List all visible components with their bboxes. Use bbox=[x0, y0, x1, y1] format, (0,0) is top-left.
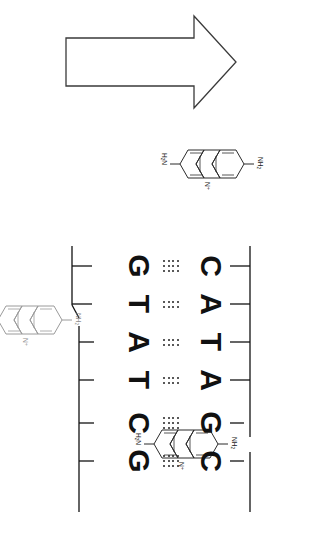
hydrogen-bond-dot bbox=[172, 382, 174, 384]
hydrogen-bond-dot bbox=[172, 344, 174, 346]
base-bottom-2: T bbox=[124, 289, 154, 319]
hydrogen-bond-column bbox=[160, 265, 182, 267]
hydrogen-bonds-pair-4 bbox=[160, 369, 182, 391]
ligand-lower-ring-nitrogen-label: N+ bbox=[22, 338, 30, 346]
hydrogen-bond-dot bbox=[177, 270, 179, 272]
hydrogen-bond-dot bbox=[168, 301, 170, 303]
hydrogen-bond-dot bbox=[163, 301, 165, 303]
hydrogen-bond-dot bbox=[172, 339, 174, 341]
hydrogen-bond-dot bbox=[168, 339, 170, 341]
ligand-upper-amine-bottom-label: H2N bbox=[133, 433, 142, 445]
ligand-left-amine-bottom-label: H2N bbox=[159, 153, 168, 165]
hydrogen-bond-dot bbox=[168, 306, 170, 308]
hydrogen-bond-dot bbox=[168, 422, 170, 424]
hydrogen-bond-dot bbox=[168, 260, 170, 262]
base-bottom-4: T bbox=[124, 365, 154, 395]
hydrogen-bond-dot bbox=[163, 460, 165, 462]
hydrogen-bond-dot bbox=[172, 422, 174, 424]
hydrogen-bond-column bbox=[160, 382, 182, 384]
hydrogen-bond-dot bbox=[168, 265, 170, 267]
hydrogen-bond-dot bbox=[168, 427, 170, 429]
hydrogen-bond-dot bbox=[172, 265, 174, 267]
hydrogen-bond-dot bbox=[172, 455, 174, 457]
hydrogen-bond-column bbox=[160, 422, 182, 424]
hydrogen-bond-dot bbox=[177, 339, 179, 341]
hydrogen-bond-dot bbox=[172, 377, 174, 379]
hydrogen-bond-dot bbox=[177, 306, 179, 308]
base-top-5: G bbox=[196, 408, 226, 438]
hydrogen-bond-dot bbox=[163, 260, 165, 262]
hydrogen-bond-dot bbox=[177, 260, 179, 262]
hydrogen-bond-dot bbox=[172, 260, 174, 262]
hydrogen-bond-dot bbox=[172, 427, 174, 429]
hydrogen-bond-dot bbox=[163, 465, 165, 467]
base-bottom-6: G bbox=[124, 446, 154, 476]
ligand-left-ring-nitrogen-label: N+ bbox=[204, 182, 212, 190]
hydrogen-bond-dot bbox=[163, 377, 165, 379]
hydrogen-bond-dot bbox=[163, 344, 165, 346]
hydrogen-bonds-pair-1 bbox=[160, 255, 182, 277]
hydrogen-bond-dot bbox=[177, 265, 179, 267]
hydrogen-bond-dot bbox=[172, 270, 174, 272]
hydrogen-bond-dot bbox=[177, 382, 179, 384]
hydrogen-bond-dot bbox=[172, 460, 174, 462]
hydrogen-bond-dot bbox=[177, 301, 179, 303]
hydrogen-bond-column bbox=[160, 427, 182, 429]
hydrogen-bond-dot bbox=[172, 417, 174, 419]
ligand-upper-ring-nitrogen-label: N+ bbox=[178, 462, 186, 470]
hydrogen-bond-dot bbox=[163, 422, 165, 424]
hydrogen-bond-dot bbox=[163, 339, 165, 341]
hydrogen-bonds-pair-5 bbox=[160, 412, 182, 434]
hydrogen-bond-dot bbox=[177, 422, 179, 424]
hydrogen-bond-dot bbox=[177, 344, 179, 346]
hydrogen-bond-dot bbox=[177, 417, 179, 419]
base-bottom-3: A bbox=[124, 327, 154, 357]
hydrogen-bond-dot bbox=[163, 265, 165, 267]
hydrogen-bond-column bbox=[160, 306, 182, 308]
hydrogen-bond-dot bbox=[177, 377, 179, 379]
hydrogen-bonds-pair-3 bbox=[160, 331, 182, 353]
hydrogen-bond-column bbox=[160, 270, 182, 272]
hydrogen-bond-column bbox=[160, 455, 182, 457]
hydrogen-bond-dot bbox=[163, 382, 165, 384]
base-top-4: A bbox=[196, 365, 226, 395]
hydrogen-bond-dot bbox=[172, 306, 174, 308]
base-bottom-1: G bbox=[124, 251, 154, 281]
hydrogen-bond-dot bbox=[172, 301, 174, 303]
ligand-left-amine-top-label: NH2 bbox=[255, 157, 264, 169]
hydrogen-bond-dot bbox=[168, 382, 170, 384]
hydrogen-bond-dot bbox=[168, 270, 170, 272]
hydrogen-bond-dot bbox=[163, 427, 165, 429]
figure-text-layer: C A T A G C G T A T C G NH2 N+ H2N NH2 bbox=[0, 0, 322, 546]
hydrogen-bond-dot bbox=[168, 344, 170, 346]
hydrogen-bond-column bbox=[160, 344, 182, 346]
hydrogen-bond-dot bbox=[168, 377, 170, 379]
base-top-3: T bbox=[196, 327, 226, 357]
hydrogen-bond-dot bbox=[168, 460, 170, 462]
hydrogen-bond-column bbox=[160, 417, 182, 419]
hydrogen-bond-dot bbox=[177, 427, 179, 429]
hydrogen-bond-dot bbox=[172, 465, 174, 467]
hydrogen-bond-dot bbox=[168, 455, 170, 457]
hydrogen-bond-column bbox=[160, 339, 182, 341]
hydrogen-bond-column bbox=[160, 301, 182, 303]
hydrogen-bond-column bbox=[160, 260, 182, 262]
hydrogen-bond-column bbox=[160, 377, 182, 379]
hydrogen-bond-dot bbox=[163, 306, 165, 308]
ligand-lower-amine-top-label: NH2 bbox=[73, 313, 82, 325]
hydrogen-bonds-pair-2 bbox=[160, 293, 182, 315]
base-top-2: A bbox=[196, 289, 226, 319]
base-top-1: C bbox=[196, 251, 226, 281]
base-top-6: C bbox=[196, 446, 226, 476]
hydrogen-bond-dot bbox=[163, 417, 165, 419]
hydrogen-bond-dot bbox=[163, 270, 165, 272]
hydrogen-bond-dot bbox=[177, 455, 179, 457]
hydrogen-bond-dot bbox=[168, 417, 170, 419]
hydrogen-bond-dot bbox=[163, 455, 165, 457]
figure-canvas: C A T A G C G T A T C G NH2 N+ H2N NH2 bbox=[0, 0, 322, 546]
hydrogen-bond-dot bbox=[168, 465, 170, 467]
ligand-upper-amine-top-label: NH2 bbox=[229, 437, 238, 449]
